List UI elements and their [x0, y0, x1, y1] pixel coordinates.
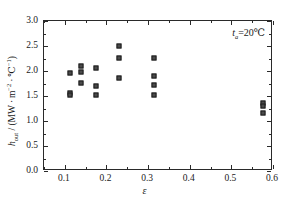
- data-point: [93, 84, 98, 89]
- data-point: [67, 91, 72, 96]
- axis-tick: [211, 167, 212, 169]
- data-point: [152, 73, 157, 78]
- data-point: [79, 64, 84, 69]
- y-tick-label: 3.0: [0, 15, 38, 26]
- axis-tick: [269, 59, 271, 60]
- x-tick-label: 0.4: [183, 173, 195, 184]
- axis-tick: [148, 21, 149, 25]
- scatter-chart-figure: ta=20℃ 0.10.20.30.40.50.6 0.00.51.01.52.…: [0, 0, 289, 202]
- axis-tick: [86, 21, 87, 23]
- axis-tick: [269, 109, 271, 110]
- axis-tick: [44, 34, 46, 35]
- condition-annotation: ta=20℃: [232, 27, 265, 40]
- axis-tick: [127, 167, 128, 169]
- axis-tick: [65, 21, 66, 25]
- axis-tick: [44, 167, 45, 169]
- data-point: [116, 55, 121, 60]
- axis-tick: [267, 96, 271, 97]
- axis-tick: [267, 46, 271, 47]
- axis-tick: [190, 21, 191, 25]
- axis-tick: [44, 96, 48, 97]
- data-point: [152, 92, 157, 97]
- axis-tick: [44, 84, 46, 85]
- data-point: [67, 93, 72, 98]
- x-tick-label: 0.5: [224, 173, 236, 184]
- data-point: [152, 56, 157, 61]
- axis-tick: [211, 21, 212, 23]
- data-point: [116, 75, 121, 80]
- data-point: [93, 93, 98, 98]
- axis-tick: [269, 34, 271, 35]
- data-point: [79, 70, 84, 75]
- x-tick-label: 0.1: [58, 173, 70, 184]
- x-tick-label: 0.3: [141, 173, 153, 184]
- axis-tick: [65, 165, 66, 169]
- axis-tick: [106, 165, 107, 169]
- axis-tick: [44, 134, 46, 135]
- axis-tick: [273, 21, 274, 25]
- data-point: [93, 65, 98, 70]
- axis-tick: [252, 167, 253, 169]
- axis-tick: [169, 167, 170, 169]
- axis-tick: [169, 21, 170, 23]
- annotation-value: =20℃: [238, 27, 265, 38]
- data-point: [116, 44, 121, 49]
- data-point: [67, 70, 72, 75]
- axis-tick: [231, 165, 232, 169]
- x-axis-label: ε: [0, 185, 289, 196]
- axis-tick: [269, 159, 271, 160]
- axis-tick: [190, 165, 191, 169]
- axis-tick: [252, 21, 253, 23]
- axis-tick: [86, 167, 87, 169]
- x-tick-label: 0.6: [266, 173, 278, 184]
- axis-tick: [273, 165, 274, 169]
- data-points-layer: [44, 21, 271, 169]
- axis-tick: [231, 21, 232, 25]
- axis-tick: [267, 121, 271, 122]
- y-axis-label: hout / (MW · m−2 · ℃−1): [5, 26, 19, 176]
- axis-tick: [44, 59, 46, 60]
- axis-tick: [267, 71, 271, 72]
- axis-tick: [44, 21, 45, 23]
- x-tick-label: 0.2: [100, 173, 112, 184]
- axis-tick: [44, 159, 46, 160]
- axis-tick: [127, 21, 128, 23]
- axis-tick: [148, 165, 149, 169]
- data-point: [260, 111, 265, 116]
- axis-tick: [269, 84, 271, 85]
- axis-tick: [267, 146, 271, 147]
- axis-tick: [106, 21, 107, 25]
- data-point: [260, 101, 265, 106]
- axis-tick: [44, 71, 48, 72]
- axis-tick: [44, 146, 48, 147]
- plot-area: ta=20℃: [43, 20, 272, 170]
- axis-tick: [44, 171, 48, 172]
- axis-tick: [269, 134, 271, 135]
- data-point: [152, 82, 157, 87]
- axis-tick: [44, 46, 48, 47]
- axis-tick: [44, 121, 48, 122]
- data-point: [79, 81, 84, 86]
- axis-tick: [44, 109, 46, 110]
- axis-tick: [267, 171, 271, 172]
- data-point: [260, 103, 265, 108]
- axis-tick: [267, 21, 271, 22]
